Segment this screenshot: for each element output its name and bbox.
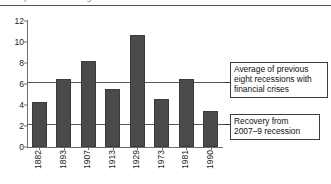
- x-axis-line: [27, 147, 223, 148]
- y-tick-label-8: 8: [0, 59, 27, 68]
- y-tick-label-2: 2: [0, 122, 27, 131]
- y-tick-label-0: 0: [0, 143, 27, 152]
- bar-1981: [179, 79, 194, 147]
- bar-1893: [56, 79, 71, 147]
- x-tick-mark-1907: [88, 147, 89, 150]
- callout-recovery-line2: 2007–9 recession: [234, 127, 316, 137]
- y-tick-label-10: 10: [0, 38, 27, 47]
- y-tick-label-6: 6: [0, 80, 27, 89]
- x-tick-label-1907: 1907: [83, 150, 92, 169]
- bar-1973: [154, 99, 169, 147]
- bar-1990: [203, 111, 218, 147]
- callout-recovery: Recovery from 2007–9 recession: [230, 114, 320, 140]
- bars-layer: [27, 21, 223, 147]
- x-tick-label-1990: 1990: [206, 150, 215, 169]
- y-tick-label-4: 4: [0, 101, 27, 110]
- x-tick-mark-1913: [113, 147, 114, 150]
- top-rule-divider: [0, 5, 331, 6]
- y-tick-mark-4: [24, 105, 27, 106]
- x-tick-mark-1929: [137, 147, 138, 150]
- chart-figure: year recession began 024681012 188218931…: [0, 0, 331, 184]
- callout-average-line3: financial crises: [234, 85, 324, 95]
- callout-average: Average of previous eight recessions wit…: [230, 62, 328, 98]
- x-tick-label-1981: 1981: [181, 150, 190, 169]
- y-tick-label-12: 12: [0, 17, 27, 26]
- bar-1882: [32, 102, 47, 147]
- x-tick-label-1893: 1893: [59, 150, 68, 169]
- plot-area: [27, 21, 223, 147]
- x-tick-label-1882: 1882: [34, 150, 43, 169]
- y-tick-mark-2: [24, 126, 27, 127]
- y-tick-mark-12: [24, 21, 27, 22]
- x-tick-mark-1990: [211, 147, 212, 150]
- x-tick-label-1913: 1913: [108, 150, 117, 169]
- x-tick-mark-1882: [39, 147, 40, 150]
- y-tick-mark-6: [24, 84, 27, 85]
- x-tick-mark-1893: [64, 147, 65, 150]
- clipped-title-fragment: year recession began: [24, 0, 204, 3]
- bar-1913: [105, 89, 120, 147]
- bar-1929: [130, 35, 145, 147]
- x-tick-mark-1973: [162, 147, 163, 150]
- x-tick-mark-1981: [186, 147, 187, 150]
- y-tick-mark-0: [24, 147, 27, 148]
- bar-1907: [81, 61, 96, 147]
- y-tick-mark-10: [24, 42, 27, 43]
- x-tick-label-1973: 1973: [157, 150, 166, 169]
- y-tick-mark-8: [24, 63, 27, 64]
- x-tick-label-1929: 1929: [132, 150, 141, 169]
